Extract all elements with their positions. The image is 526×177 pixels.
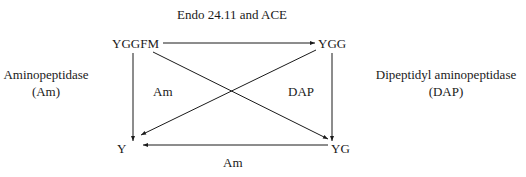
edge-label-am-bottom: Am xyxy=(223,155,243,170)
side-label-left-line1: Aminopeptidase xyxy=(0,67,92,82)
side-label-right-line1: Dipeptidyl aminopeptidase xyxy=(372,67,520,82)
node-y: Y xyxy=(117,141,126,156)
side-label-left-line2: (Am) xyxy=(0,84,92,99)
node-yggfm: YGGFM xyxy=(112,36,159,51)
edge-label-am-inner: Am xyxy=(153,84,173,99)
edge-label-dap-inner: DAP xyxy=(288,84,314,99)
diagram-title: Endo 24.11 and ACE xyxy=(172,7,292,22)
node-yg: YG xyxy=(331,141,350,156)
side-label-right-line2: (DAP) xyxy=(372,84,520,99)
node-ygg: YGG xyxy=(318,36,346,51)
